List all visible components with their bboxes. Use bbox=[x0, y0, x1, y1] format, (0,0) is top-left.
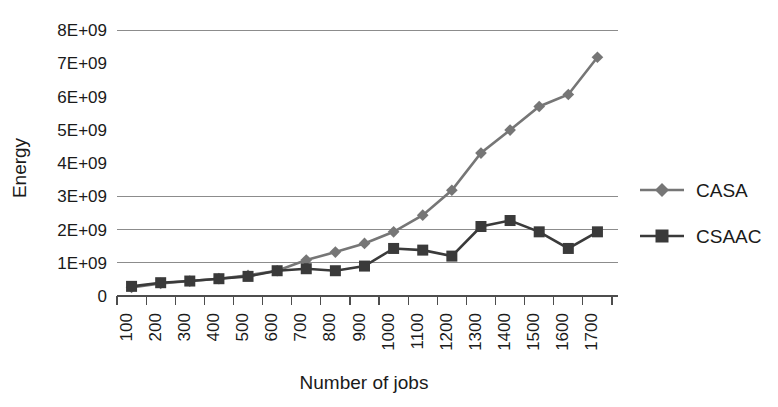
x-axis-title: Number of jobs bbox=[300, 372, 429, 393]
x-tick-label: 900 bbox=[350, 313, 369, 341]
data-point-marker-diamond bbox=[388, 226, 400, 238]
x-tick-label: 300 bbox=[175, 313, 194, 341]
data-point-marker-square bbox=[155, 277, 166, 288]
y-tick-label: 4E+09 bbox=[57, 154, 107, 173]
y-tick-label: 2E+09 bbox=[57, 221, 107, 240]
series-line bbox=[132, 57, 598, 287]
series-csaac bbox=[126, 215, 603, 292]
data-point-marker-diamond bbox=[359, 238, 371, 250]
x-tick-label: 800 bbox=[320, 313, 339, 341]
line-chart: 01E+092E+093E+094E+095E+096E+097E+098E+0… bbox=[0, 0, 778, 407]
y-tick-label: 6E+09 bbox=[57, 88, 107, 107]
x-tick-label: 1400 bbox=[495, 313, 514, 351]
data-point-marker-square bbox=[330, 265, 341, 276]
x-tick-label: 200 bbox=[146, 313, 165, 341]
x-tick-label: 700 bbox=[291, 313, 310, 341]
data-point-marker-square bbox=[656, 230, 669, 243]
series-line bbox=[132, 221, 598, 287]
y-tick-label: 7E+09 bbox=[57, 54, 107, 73]
data-point-marker-square bbox=[126, 281, 137, 292]
data-point-marker-diamond bbox=[330, 246, 342, 258]
x-tick-label: 1300 bbox=[466, 313, 485, 351]
legend-item-casa[interactable]: CASA bbox=[640, 180, 748, 201]
y-tick-label: 8E+09 bbox=[57, 21, 107, 40]
data-point-marker-square bbox=[563, 243, 574, 254]
data-point-marker-square bbox=[301, 263, 312, 274]
x-tick-label: 400 bbox=[204, 313, 223, 341]
chart-figure: 01E+092E+093E+094E+095E+096E+097E+098E+0… bbox=[0, 0, 778, 407]
data-point-marker-square bbox=[505, 215, 516, 226]
y-tick-labels-group: 01E+092E+093E+094E+095E+096E+097E+098E+0… bbox=[57, 21, 107, 306]
x-tick-label: 500 bbox=[233, 313, 252, 341]
data-point-marker-square bbox=[243, 271, 254, 282]
y-tick-label: 5E+09 bbox=[57, 121, 107, 140]
data-point-marker-square bbox=[534, 226, 545, 237]
data-point-marker-square bbox=[592, 226, 603, 237]
legend-item-csaac[interactable]: CSAAC bbox=[640, 226, 761, 247]
x-tick-label: 1000 bbox=[379, 313, 398, 351]
x-tick-label: 1600 bbox=[553, 313, 572, 351]
y-tick-label: 1E+09 bbox=[57, 254, 107, 273]
data-point-marker-square bbox=[388, 243, 399, 254]
data-point-marker-square bbox=[213, 273, 224, 284]
y-tick-label: 3E+09 bbox=[57, 187, 107, 206]
data-point-marker-square bbox=[184, 276, 195, 287]
x-tick-label: 1100 bbox=[408, 313, 427, 350]
data-point-marker-square bbox=[359, 261, 370, 272]
x-tickmarks-group bbox=[117, 296, 612, 305]
chart-legend: CASACSAAC bbox=[640, 180, 761, 247]
data-point-marker-square bbox=[475, 221, 486, 232]
x-tick-label: 1700 bbox=[582, 313, 601, 351]
data-point-marker-diamond bbox=[655, 183, 669, 197]
x-tick-label: 600 bbox=[262, 313, 281, 341]
data-point-marker-square bbox=[272, 265, 283, 276]
data-point-marker-square bbox=[446, 251, 457, 262]
x-tick-labels-group: 1002003004005006007008009001000110012001… bbox=[117, 313, 602, 351]
legend-label: CSAAC bbox=[696, 226, 761, 247]
x-tick-label: 1200 bbox=[437, 313, 456, 351]
x-tick-label: 100 bbox=[117, 313, 136, 341]
x-tick-label: 1500 bbox=[524, 313, 543, 351]
data-series-group bbox=[126, 51, 604, 293]
legend-label: CASA bbox=[696, 180, 748, 201]
y-axis-title: Energy bbox=[9, 137, 30, 198]
y-tick-label: 0 bbox=[98, 287, 107, 306]
series-casa bbox=[126, 51, 604, 293]
data-point-marker-square bbox=[417, 245, 428, 256]
